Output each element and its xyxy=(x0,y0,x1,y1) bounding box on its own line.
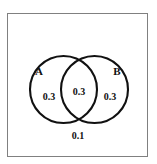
value-b-only: 0.3 xyxy=(99,92,121,102)
set-a-label: A xyxy=(32,66,46,77)
value-outside-sets: 0.1 xyxy=(66,131,90,141)
venn-diagram-figure: A B 0.3 0.3 0.3 0.1 xyxy=(0,0,157,164)
value-a-only: 0.3 xyxy=(38,92,60,102)
set-b-label: B xyxy=(110,66,124,77)
value-intersection: 0.3 xyxy=(68,87,90,97)
